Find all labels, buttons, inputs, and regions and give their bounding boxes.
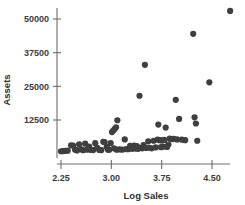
data-point — [165, 141, 171, 147]
y-axis-title: Assets — [1, 74, 12, 105]
data-point — [155, 121, 161, 127]
data-point — [182, 137, 188, 143]
data-point — [145, 138, 151, 144]
data-point — [65, 148, 71, 154]
data-point — [191, 114, 197, 120]
y-tick-label: 50000 — [24, 14, 49, 24]
x-tick-label: 3.75 — [153, 173, 171, 183]
x-tick-label: 2.25 — [52, 173, 70, 183]
data-point — [193, 120, 199, 126]
data-point — [98, 147, 104, 153]
data-points-layer — [58, 8, 233, 155]
y-tick-label: 12500 — [24, 115, 49, 125]
data-point — [176, 116, 182, 122]
data-point — [108, 140, 114, 146]
y-tick-label: 37500 — [24, 48, 49, 58]
data-point — [113, 124, 119, 130]
data-point — [136, 93, 142, 99]
data-point — [114, 117, 120, 123]
data-point — [227, 8, 233, 14]
data-point — [153, 144, 159, 150]
data-point — [190, 31, 196, 37]
x-tick-label: 3.00 — [103, 173, 121, 183]
data-point — [142, 62, 148, 68]
x-axis-title: Log Sales — [124, 190, 169, 201]
data-point — [206, 79, 212, 85]
scatter-chart: 125002500037500500002.253.003.754.50 Log… — [0, 0, 245, 205]
plot-canvas: 125002500037500500002.253.003.754.50 Log… — [0, 0, 245, 205]
data-point — [163, 124, 169, 130]
data-point — [194, 138, 200, 144]
tick-labels-layer: 125002500037500500002.253.003.754.50 — [24, 14, 221, 183]
data-point — [173, 97, 179, 103]
data-point — [122, 136, 128, 142]
x-tick-label: 4.50 — [203, 173, 221, 183]
y-tick-label: 25000 — [24, 82, 49, 92]
